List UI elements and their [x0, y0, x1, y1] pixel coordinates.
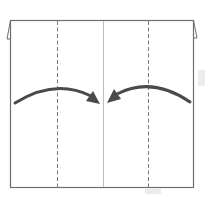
fold-diagram-svg — [0, 0, 210, 197]
ghost-mark-right — [198, 70, 205, 86]
origami-diagram — [0, 0, 210, 197]
ghost-mark-bottom — [145, 189, 161, 194]
paper-square — [11, 21, 194, 188]
